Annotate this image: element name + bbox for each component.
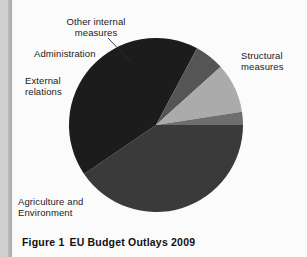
figure-caption: Figure 1EU Budget Outlays 2009 (22, 236, 195, 248)
pie-slices (69, 38, 243, 212)
slice-label-agriculture-environment: Agriculture and Environment (18, 196, 128, 218)
slice-label-other-internal-measures: Other internal measures (53, 16, 139, 38)
figure-caption-number: Figure 1 (22, 236, 64, 248)
pie-chart (0, 0, 307, 257)
figure-eu-budget-outlays: Other internal measures Administration E… (0, 0, 307, 257)
slice-label-administration: Administration (34, 48, 130, 59)
slice-label-external-relations: External relations (25, 75, 95, 97)
slice-label-structural-measures: Structural measures (241, 50, 305, 72)
figure-caption-title: EU Budget Outlays 2009 (69, 236, 195, 248)
